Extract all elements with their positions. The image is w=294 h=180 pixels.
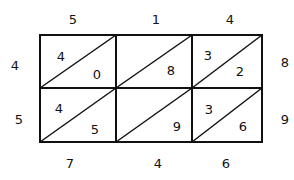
cell-r1c1-ones: 0	[89, 68, 105, 81]
bottom-digit-2: 4	[150, 157, 166, 170]
left-digit-1: 4	[7, 59, 23, 72]
top-digit-3: 4	[222, 13, 238, 26]
cell-r1c3-tens: 3	[200, 49, 216, 62]
cell-r2c1-tens: 4	[51, 102, 67, 115]
cell-r2c3-tens: 3	[201, 103, 217, 116]
cell-r2c2-ones: 9	[169, 120, 185, 133]
left-digit-2: 5	[11, 113, 27, 126]
cell-r1c2-ones: 8	[163, 64, 179, 77]
diagonal-r2c1	[40, 88, 116, 142]
top-digit-1: 5	[65, 13, 81, 26]
lattice-grid	[0, 0, 294, 180]
right-digit-1: 8	[277, 56, 293, 69]
top-digit-2: 1	[148, 13, 164, 26]
bottom-digit-1: 7	[62, 157, 78, 170]
cell-r1c3-ones: 2	[232, 65, 248, 78]
cell-r2c1-ones: 5	[87, 123, 103, 136]
cell-r2c3-ones: 6	[235, 120, 251, 133]
bottom-digit-3: 6	[218, 157, 234, 170]
diagonal-r1c2	[116, 35, 192, 88]
cell-r1c1-tens: 4	[53, 50, 69, 63]
right-digit-2: 9	[277, 113, 293, 126]
